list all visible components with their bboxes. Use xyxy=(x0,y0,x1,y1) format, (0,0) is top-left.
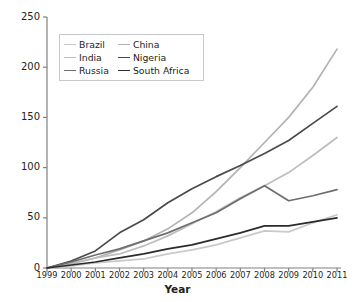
legend-label: Russia xyxy=(79,65,109,77)
series-line-india xyxy=(47,137,337,268)
legend-item-brazil[interactable]: Brazil xyxy=(64,39,118,51)
legend-swatch-icon xyxy=(64,44,76,45)
legend-item-china[interactable]: China xyxy=(118,39,199,51)
y-tick-label: 250 xyxy=(6,11,40,22)
legend-label: India xyxy=(79,52,102,64)
legend-label: Nigeria xyxy=(133,52,166,64)
legend-swatch-icon xyxy=(118,44,130,45)
legend-swatch-icon xyxy=(64,57,76,58)
legend-row: RussiaSouth Africa xyxy=(64,64,198,77)
legend-row: IndiaNigeria xyxy=(64,51,198,64)
legend-item-india[interactable]: India xyxy=(64,52,118,64)
series-line-nigeria xyxy=(47,106,337,268)
series-line-china xyxy=(47,49,337,268)
y-tick-label: 100 xyxy=(6,161,40,172)
legend-row: BrazilChina xyxy=(64,38,198,51)
legend-table: BrazilChinaIndiaNigeriaRussiaSouth Afric… xyxy=(64,38,198,77)
legend-label: China xyxy=(133,39,160,51)
legend-label: South Africa xyxy=(133,65,190,77)
x-axis-title: Year xyxy=(0,283,355,295)
legend-swatch-icon xyxy=(118,70,130,71)
chart-legend: BrazilChinaIndiaNigeriaRussiaSouth Afric… xyxy=(59,34,204,81)
series-line-russia xyxy=(47,186,337,268)
legend-label: Brazil xyxy=(79,39,105,51)
x-tick-label: 2011 xyxy=(322,270,352,280)
legend-item-nigeria[interactable]: Nigeria xyxy=(118,52,199,64)
legend-swatch-icon xyxy=(118,57,130,58)
gdp-growth-line-chart: Percentage growth in GDP Year 0501001502… xyxy=(0,0,355,302)
legend-item-russia[interactable]: Russia xyxy=(64,65,118,77)
y-tick-label: 50 xyxy=(6,211,40,222)
series-line-south-africa xyxy=(47,218,337,268)
y-tick-label: 150 xyxy=(6,111,40,122)
y-tick-label: 200 xyxy=(6,61,40,72)
legend-swatch-icon xyxy=(64,70,76,71)
legend-item-south-africa[interactable]: South Africa xyxy=(118,65,199,77)
series-lines xyxy=(47,49,337,268)
